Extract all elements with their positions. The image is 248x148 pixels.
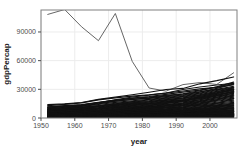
y-axis-title: gdpPercap [2,43,11,84]
chart-canvas: 195019601970198019902000 030000600009000… [0,0,248,148]
x-axis-title: year [131,137,147,146]
y-axis-tick-label: 60000 [17,57,37,64]
x-axis-tick-label: 1990 [168,122,184,129]
x-axis-tick-label: 1960 [67,122,83,129]
gdppercap-year-line-chart: 195019601970198019902000 030000600009000… [0,0,248,148]
x-axis-tick-label: 2000 [202,122,218,129]
y-axis-tick-label: 0 [32,115,36,122]
y-axis-tick-label: 30000 [17,86,37,93]
y-axis-tick-label: 90000 [17,28,37,35]
x-axis-tick-label: 1980 [135,122,151,129]
x-axis-tick-label: 1970 [101,122,117,129]
x-axis-tick-label: 1950 [33,122,49,129]
